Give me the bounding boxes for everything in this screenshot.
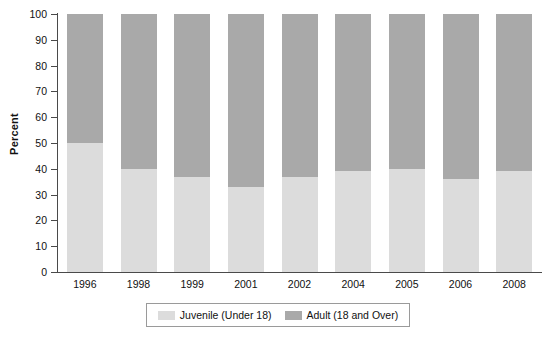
y-tick-mark	[51, 66, 57, 67]
legend-entry[interactable]: Juvenile (Under 18)	[158, 310, 272, 321]
y-tick-mark	[51, 246, 57, 247]
legend-label: Juvenile (Under 18)	[180, 310, 272, 321]
x-tick-label: 2008	[484, 279, 544, 290]
bar-segment[interactable]	[335, 171, 371, 272]
bar-segment[interactable]	[228, 14, 264, 187]
bar-group[interactable]	[496, 14, 532, 272]
y-tick-label: 10	[0, 241, 47, 252]
y-tick-label: 90	[0, 35, 47, 46]
y-tick-label: 100	[0, 9, 47, 20]
bar-segment[interactable]	[389, 14, 425, 169]
y-tick-mark	[51, 169, 57, 170]
bar-segment[interactable]	[443, 179, 479, 272]
y-tick-label: 30	[0, 190, 47, 201]
bar-segment[interactable]	[67, 143, 103, 272]
bar-segment[interactable]	[174, 177, 210, 272]
legend-label: Adult (18 and Over)	[307, 310, 399, 321]
x-tick-label: 1999	[162, 279, 222, 290]
bar-segment[interactable]	[121, 14, 157, 169]
y-tick-mark	[51, 220, 57, 221]
bar-segment[interactable]	[496, 14, 532, 171]
y-tick-mark	[51, 14, 57, 15]
y-tick-label: 20	[0, 215, 47, 226]
bar-segment[interactable]	[282, 14, 318, 177]
y-tick-mark	[51, 40, 57, 41]
x-tick-label: 2004	[323, 279, 383, 290]
legend-entry[interactable]: Adult (18 and Over)	[285, 310, 399, 321]
x-tick-label: 1996	[55, 279, 115, 290]
bar-segment[interactable]	[389, 169, 425, 272]
bar-segment[interactable]	[228, 187, 264, 272]
y-tick-mark	[51, 272, 57, 273]
y-axis-title: Percent	[8, 99, 20, 169]
x-tick-label: 2005	[377, 279, 437, 290]
x-axis-line	[57, 272, 542, 273]
y-tick-label: 0	[0, 267, 47, 278]
chart-legend: Juvenile (Under 18)Adult (18 and Over)	[146, 303, 410, 327]
stacked-bar-chart: Percent 0102030405060708090100 199619981…	[0, 0, 554, 339]
bar-group[interactable]	[174, 14, 210, 272]
y-tick-label: 60	[0, 112, 47, 123]
x-tick-label: 2006	[431, 279, 491, 290]
legend-swatch	[285, 311, 302, 320]
y-tick-label: 50	[0, 138, 47, 149]
bar-group[interactable]	[121, 14, 157, 272]
x-tick-label: 2001	[216, 279, 276, 290]
bar-group[interactable]	[282, 14, 318, 272]
y-tick-mark	[51, 91, 57, 92]
y-tick-mark	[51, 117, 57, 118]
bar-segment[interactable]	[67, 14, 103, 143]
bar-group[interactable]	[389, 14, 425, 272]
legend-swatch	[158, 311, 175, 320]
bar-group[interactable]	[443, 14, 479, 272]
bar-segment[interactable]	[121, 169, 157, 272]
bar-segment[interactable]	[282, 177, 318, 272]
y-tick-mark	[51, 195, 57, 196]
y-tick-label: 40	[0, 164, 47, 175]
x-tick-label: 2002	[270, 279, 330, 290]
y-tick-mark	[51, 143, 57, 144]
bar-segment[interactable]	[496, 171, 532, 272]
plot-area	[58, 14, 541, 272]
bar-group[interactable]	[335, 14, 371, 272]
bar-segment[interactable]	[335, 14, 371, 171]
bar-group[interactable]	[228, 14, 264, 272]
bar-group[interactable]	[67, 14, 103, 272]
y-tick-label: 80	[0, 61, 47, 72]
bar-segment[interactable]	[443, 14, 479, 179]
y-tick-label: 70	[0, 86, 47, 97]
x-tick-label: 1998	[109, 279, 169, 290]
bar-segment[interactable]	[174, 14, 210, 177]
